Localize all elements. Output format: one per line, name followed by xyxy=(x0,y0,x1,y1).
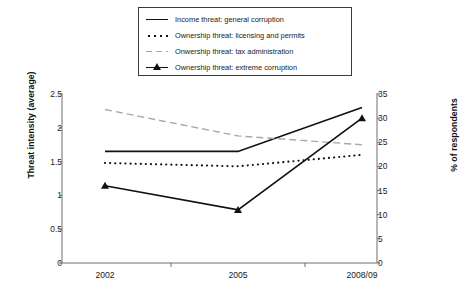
data-series-line xyxy=(105,155,362,166)
data-series-line xyxy=(105,118,362,210)
data-point-marker xyxy=(101,182,109,189)
plot-area xyxy=(0,0,460,294)
data-point-marker xyxy=(358,114,366,121)
chart-container: Income threat: general corruption Owners… xyxy=(0,0,460,294)
data-series-layer xyxy=(101,108,366,213)
data-series-line xyxy=(105,110,362,145)
data-series-line xyxy=(105,108,362,152)
